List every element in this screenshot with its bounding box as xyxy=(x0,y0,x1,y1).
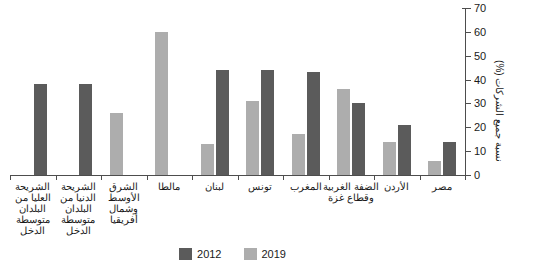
x-axis-tick xyxy=(56,175,57,180)
x-axis-tick xyxy=(329,175,330,180)
bar-group xyxy=(374,8,420,175)
y-axis-tick xyxy=(466,56,471,57)
plot-area xyxy=(10,8,465,175)
bar-group xyxy=(329,8,375,175)
bar-group-inner xyxy=(101,8,147,175)
chart-legend: 2019 2012 xyxy=(0,248,465,260)
legend-item-2019: 2019 xyxy=(244,248,286,260)
bar-group xyxy=(101,8,147,175)
y-axis-tick xyxy=(466,8,471,9)
bar-2012 xyxy=(352,103,365,175)
x-axis-tick xyxy=(10,175,11,180)
x-axis-tick xyxy=(101,175,102,180)
bar-group xyxy=(283,8,329,175)
bar-2019 xyxy=(246,101,259,175)
y-axis-tick-label: 40 xyxy=(474,74,486,85)
bar-2019 xyxy=(155,32,168,175)
bar-2019 xyxy=(201,144,214,175)
y-axis-tick xyxy=(466,80,471,81)
y-axis-tick-label: 60 xyxy=(474,26,486,37)
bar-group-inner xyxy=(192,8,238,175)
y-axis-tick-label: 0 xyxy=(474,170,480,181)
bar-2012 xyxy=(79,84,92,175)
x-axis-tick xyxy=(192,175,193,180)
bar-2012 xyxy=(261,70,274,175)
bar-2012 xyxy=(216,70,229,175)
x-axis-category-label: الشريحة العليا من البلدان متوسطة الدخل xyxy=(11,181,55,236)
bar-group-inner xyxy=(283,8,329,175)
x-axis-category-label: تونس xyxy=(240,181,280,192)
x-axis-category-label: الشرق الأوسط وشمال أفريقيا xyxy=(102,181,146,225)
y-axis-tick-label: 30 xyxy=(474,98,486,109)
bar-2012 xyxy=(307,72,320,175)
bar-group-inner xyxy=(329,8,375,175)
bar-group xyxy=(147,8,193,175)
y-axis-tick-label: 20 xyxy=(474,122,486,133)
x-axis-tick xyxy=(420,175,421,180)
bar-2012 xyxy=(443,142,456,175)
legend-swatch-2019-icon xyxy=(244,248,257,260)
legend-label-2019: 2019 xyxy=(262,248,286,260)
bar-group-inner xyxy=(147,8,193,175)
x-axis-category-label: لبنان xyxy=(195,181,235,192)
bar-group xyxy=(420,8,466,175)
bar-group-inner xyxy=(420,8,466,175)
legend-label-2012: 2012 xyxy=(197,248,221,260)
y-axis-line xyxy=(465,8,466,175)
y-axis-end-cap xyxy=(462,8,466,9)
bar-group xyxy=(192,8,238,175)
bar-group-inner xyxy=(374,8,420,175)
legend-item-2012: 2012 xyxy=(179,248,221,260)
x-axis-category-label: المغرب xyxy=(286,181,326,192)
x-axis-category-label: الشريحة الدنيا من البلدان متوسطة الدخل xyxy=(56,181,100,236)
x-axis-tick xyxy=(283,175,284,180)
x-axis-tick xyxy=(374,175,375,180)
y-axis-tick-label: 10 xyxy=(474,146,486,157)
y-axis-tick-label: 50 xyxy=(474,50,486,61)
x-axis-tick xyxy=(238,175,239,180)
bar-group xyxy=(10,8,56,175)
x-axis-tick xyxy=(465,175,466,180)
bar-2012 xyxy=(34,84,47,175)
y-axis-tick xyxy=(466,127,471,128)
bar-2019 xyxy=(337,89,350,175)
y-axis-tick xyxy=(466,175,471,176)
y-axis-tick xyxy=(466,151,471,152)
legend-swatch-2012-icon xyxy=(179,248,192,260)
x-axis-category-label: مصر xyxy=(422,181,462,192)
bar-2019 xyxy=(292,134,305,175)
bar-group xyxy=(56,8,102,175)
bar-group xyxy=(238,8,284,175)
bar-2019 xyxy=(110,113,123,175)
y-axis-title: نسبة جميع الشركات (%) xyxy=(494,22,505,162)
y-axis-tick xyxy=(466,103,471,104)
bar-chart: نسبة جميع الشركات (%) 2019 2012 01020304… xyxy=(0,0,541,272)
x-axis-category-label: الضفة الغربية وقطاع غزة xyxy=(323,181,379,203)
x-axis-category-label: الأردن xyxy=(377,181,417,192)
bar-2012 xyxy=(398,125,411,175)
bar-group-inner xyxy=(10,8,56,175)
bar-2019 xyxy=(428,161,441,175)
y-axis-tick-label: 70 xyxy=(474,3,486,14)
bar-group-inner xyxy=(56,8,102,175)
x-axis-category-label: مالطا xyxy=(149,181,189,192)
bar-2019 xyxy=(383,142,396,175)
y-axis-tick xyxy=(466,32,471,33)
x-axis-tick xyxy=(147,175,148,180)
bar-group-inner xyxy=(238,8,284,175)
